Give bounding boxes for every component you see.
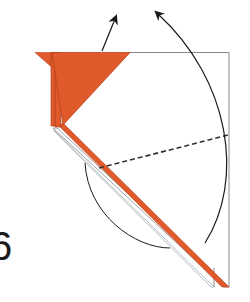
arrow-swing-arc-icon — [158, 14, 227, 243]
valley-fold-line — [99, 135, 228, 168]
orange-flap — [35, 53, 130, 128]
arrow-lower-arc — [85, 163, 170, 248]
square-outline — [130, 53, 229, 288]
diagonal-strip — [53, 124, 229, 287]
origami-diagram — [0, 0, 250, 302]
arrow-up-flap-icon — [102, 19, 115, 51]
step-number: 6 — [0, 226, 12, 266]
